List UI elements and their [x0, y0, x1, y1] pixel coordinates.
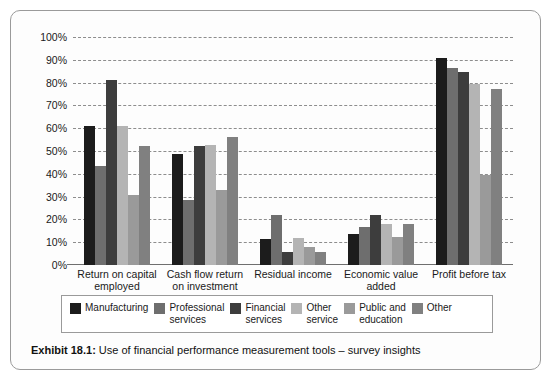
y-axis-tick-label: 50%: [15, 145, 67, 157]
x-axis-tick-label: Profit before tax: [425, 269, 513, 281]
caption-label: Exhibit 18.1:: [31, 344, 96, 356]
x-axis-category-labels: Return on capitalemployedCash flow retur…: [73, 19, 513, 281]
legend-label: Professional services: [169, 302, 224, 325]
legend-item: Public and education: [344, 302, 406, 325]
y-axis-tick-label: 60%: [15, 122, 67, 134]
legend-item: Financial services: [230, 302, 285, 325]
legend-swatch: [412, 303, 423, 314]
y-axis-tick-label: 40%: [15, 168, 67, 180]
x-axis-tick-label: Return on capitalemployed: [73, 269, 161, 292]
y-axis-tick-label: 0%: [15, 259, 67, 271]
legend-swatch: [344, 303, 355, 314]
x-axis-tick-label: Economic valueadded: [337, 269, 425, 292]
x-axis-tick-label: Cash flow returnon investment: [161, 269, 249, 292]
y-axis-tick-label: 70%: [15, 99, 67, 111]
legend-swatch: [291, 303, 302, 314]
legend-label: Other: [427, 302, 452, 314]
legend-items: ManufacturingProfessional servicesFinanc…: [62, 296, 492, 332]
y-axis-tick-label: 90%: [15, 54, 67, 66]
chart-figure: 0%10%20%30%40%50%60%70%80%90%100% Return…: [11, 19, 542, 281]
exhibit-caption: Exhibit 18.1: Use of financial performan…: [31, 344, 531, 356]
legend-label: Manufacturing: [85, 302, 148, 314]
caption-text: Use of financial performance measurement…: [99, 344, 421, 356]
legend-label: Public and education: [359, 302, 406, 325]
legend-swatch: [230, 303, 241, 314]
legend-label: Other service: [306, 302, 338, 325]
x-axis-tick-label: Residual income: [249, 269, 337, 281]
legend-item: Other service: [291, 302, 338, 325]
y-axis-tick-label: 10%: [15, 236, 67, 248]
legend-label: Financial services: [245, 302, 285, 325]
y-axis-tick-label: 20%: [15, 213, 67, 225]
y-axis: 0%10%20%30%40%50%60%70%80%90%100%: [11, 37, 67, 265]
chart-legend: ManufacturingProfessional servicesFinanc…: [61, 295, 493, 333]
y-axis-tick-label: 30%: [15, 191, 67, 203]
legend-item: Other: [412, 302, 452, 314]
legend-swatch: [70, 303, 81, 314]
exhibit-frame: 0%10%20%30%40%50%60%70%80%90%100% Return…: [10, 10, 541, 370]
y-axis-tick-label: 100%: [15, 31, 67, 43]
y-axis-tick-label: 80%: [15, 77, 67, 89]
legend-item: Manufacturing: [70, 302, 148, 314]
legend-item: Professional services: [154, 302, 224, 325]
legend-swatch: [154, 303, 165, 314]
